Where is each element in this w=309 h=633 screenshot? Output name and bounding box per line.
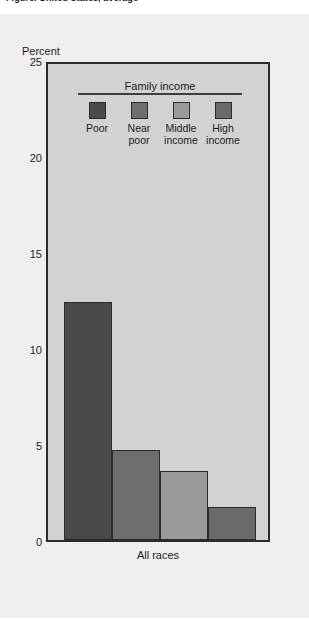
y-tick-label: 25 (2, 56, 42, 68)
figure-panel: Percent 0510152025 Family income PoorNea… (0, 14, 309, 618)
bar (160, 471, 208, 540)
bars-layer (48, 64, 268, 540)
y-tick-label: 20 (2, 152, 42, 164)
y-axis-tick-labels: 0510152025 (0, 62, 42, 542)
y-tick-label: 15 (2, 248, 42, 260)
bar (208, 507, 256, 540)
y-tick-label: 10 (2, 344, 42, 356)
y-tick-label: 0 (2, 536, 42, 548)
figure-title: Figure. United States, average (6, 0, 138, 3)
figure-title-strip: Figure. United States, average (0, 0, 309, 9)
bar (64, 302, 112, 540)
x-axis-label: All races (46, 549, 270, 561)
plot-area: Family income PoorNearpoorMiddleincomeHi… (46, 62, 270, 542)
bar (112, 450, 160, 540)
y-tick-label: 5 (2, 440, 42, 452)
